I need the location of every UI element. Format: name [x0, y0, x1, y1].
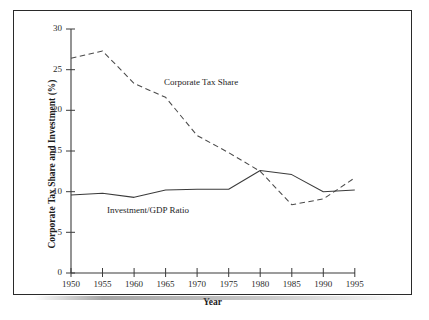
xtick-label-1985: 1985 [278, 280, 306, 289]
xtick-label-1990: 1990 [309, 280, 337, 289]
chart-plot-area [14, 11, 411, 294]
xtick-label-1995: 1995 [341, 280, 369, 289]
series-line-investment-gdp-ratio [71, 171, 355, 198]
xtick-label-1950: 1950 [57, 280, 85, 289]
y-axis-title: Corporate Tax Share and Investment (%) [47, 64, 57, 264]
ytick-label-30: 30 [38, 24, 62, 33]
xtick-label-1975: 1975 [215, 280, 243, 289]
xtick-label-1970: 1970 [183, 280, 211, 289]
frame-drop-shadow [34, 296, 414, 300]
xtick-label-1960: 1960 [120, 280, 148, 289]
ytick-label-0: 0 [38, 268, 62, 277]
xtick-label-1955: 1955 [89, 280, 117, 289]
series-annotation-corporate-tax-share: Corporate Tax Share [164, 77, 238, 87]
figure-container: 30 25 20 15 10 5 0 1950 1955 1960 1965 1… [0, 0, 429, 320]
axis-lines [71, 29, 355, 273]
xtick-label-1980: 1980 [246, 280, 274, 289]
series-annotation-investment-gdp-ratio: Investment/GDP Ratio [107, 205, 189, 215]
figure-frame: 30 25 20 15 10 5 0 1950 1955 1960 1965 1… [13, 10, 412, 295]
series-line-corporate-tax-share [71, 51, 355, 205]
xtick-label-1965: 1965 [152, 280, 180, 289]
